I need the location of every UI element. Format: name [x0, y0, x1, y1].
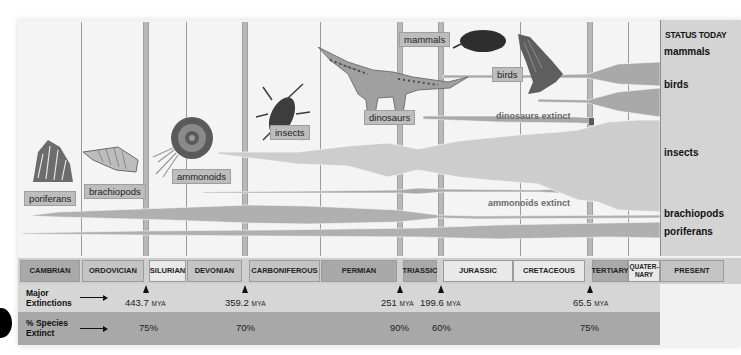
status-today-column: STATUS TODAY mammals birds insects brach…: [660, 20, 741, 256]
extinction-marker-icon: [242, 285, 248, 293]
extinction-marker-icon: [438, 285, 444, 293]
extinction-date: 359.2 MYA: [225, 297, 266, 308]
organism-label-dinosaurs: dinosaurs: [364, 110, 415, 125]
status-label-brachiopods: brachiopods: [664, 208, 724, 219]
geologic-periods-row: CAMBRIAN ORDOVICIAN SILURIAN DEVONIAN CA…: [18, 258, 741, 284]
species-extinct-percent: 75%: [139, 322, 158, 333]
dinosaurs-extinct-label: dinosaurs extinct: [496, 111, 571, 121]
period-carboniferous: CARBONIFEROUS: [249, 260, 320, 282]
period-ordovician: ORDOVICIAN: [82, 260, 144, 282]
period-cretaceous: CRETACEOUS: [513, 260, 585, 282]
major-extinctions-label: Major Extinctions: [26, 288, 72, 308]
extinction-date: 65.5 MYA: [573, 297, 609, 308]
organism-label-ammonoids: ammonoids: [172, 169, 231, 184]
organism-label-mammals: mammals: [399, 32, 450, 47]
period-devonian: DEVONIAN: [187, 260, 242, 282]
period-jurassic: JURASSIC: [443, 260, 513, 282]
period-quaternary: QUATER-NARY: [628, 260, 660, 282]
species-extinct-percent: 70%: [236, 322, 255, 333]
status-label-poriferans: poriferans: [664, 226, 713, 237]
bird-illustration: [518, 34, 563, 94]
status-label-birds: birds: [664, 79, 688, 90]
major-extinctions-row: Major Extinctions 443.7 MYA 359.2 MYA 25…: [18, 284, 660, 312]
ammonoid-illustration: [153, 117, 213, 177]
extinction-date: 251 MYA: [381, 297, 414, 308]
period-cambrian: CAMBRIAN: [20, 260, 80, 282]
organism-label-brachiopods: brachiopods: [84, 184, 146, 199]
period-present: PRESENT: [660, 260, 724, 282]
organism-label-birds: birds: [492, 67, 523, 82]
lineage-bands: [18, 22, 660, 256]
lineage-chart: poriferans brachiopods ammonoids insects…: [18, 22, 660, 256]
poriferan-illustration: [33, 140, 73, 182]
mammal-illustration: [453, 30, 506, 52]
species-extinct-row: % Species Extinct 75% 70% 90% 60% 75%: [18, 312, 660, 345]
period-silurian: SILURIAN: [149, 260, 186, 282]
extinction-date: 199.6 MYA: [420, 297, 461, 308]
species-extinct-percent: 60%: [432, 322, 451, 333]
species-extinct-label: % Species Extinct: [26, 318, 68, 338]
arrow-right-icon: [80, 328, 106, 329]
arrow-right-icon: [80, 297, 106, 298]
status-label-insects: insects: [664, 147, 698, 158]
extinction-marker-icon: [587, 285, 593, 293]
extinction-marker-icon: [143, 285, 149, 293]
extinction-marker-icon: [397, 285, 403, 293]
period-permian: PERMIAN: [321, 260, 397, 282]
period-triassic: TRIASSIC: [403, 260, 437, 282]
organism-label-poriferans: poriferans: [24, 191, 76, 206]
period-tertiary: TERTIARY: [592, 260, 628, 282]
bullet-marker: [0, 308, 12, 338]
organism-label-insects: insects: [270, 125, 310, 140]
status-label-mammals: mammals: [664, 46, 710, 57]
ammonoids-extinct-label: ammonoids extinct: [488, 198, 570, 208]
status-today-title: STATUS TODAY: [665, 30, 727, 40]
species-extinct-percent: 90%: [390, 322, 409, 333]
extinction-date: 443.7 MYA: [125, 297, 166, 308]
species-extinct-percent: 75%: [580, 322, 599, 333]
brachiopod-illustration: [83, 147, 138, 172]
